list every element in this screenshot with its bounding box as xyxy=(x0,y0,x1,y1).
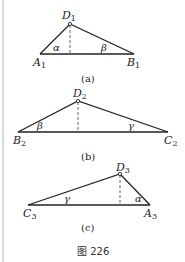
panel-label-b: (b) xyxy=(81,151,95,162)
vertex-label-a1: A1 xyxy=(32,56,46,70)
vertex-label-c3: C3 xyxy=(23,207,37,221)
angle-beta-a: β xyxy=(100,42,107,53)
panel-a: D1 A1 B1 α β (a) xyxy=(32,9,140,84)
panel-label-c: (c) xyxy=(81,222,95,233)
vertex-label-c2: C2 xyxy=(164,134,178,148)
angle-alpha-a: α xyxy=(53,42,60,53)
vertex-label-a3: A3 xyxy=(143,207,157,221)
angle-beta-b: β xyxy=(36,120,43,131)
vertex-label-d3: D3 xyxy=(115,161,130,175)
figure-226: D1 A1 B1 α β (a) D2 B2 C2 β γ (b) D3 xyxy=(0,0,185,262)
panel-c: D3 C3 A3 γ α (c) xyxy=(23,161,157,233)
vertex-label-d1: D1 xyxy=(61,9,76,23)
figure-caption: 图 226 xyxy=(77,246,109,257)
angle-gamma-b: γ xyxy=(128,120,134,131)
angle-alpha-c: α xyxy=(135,193,142,204)
angle-gamma-c: γ xyxy=(64,193,70,204)
panel-b: D2 B2 C2 β γ (b) xyxy=(12,87,178,162)
triangle-c-sides xyxy=(28,174,150,205)
triangle-diagram: D1 A1 B1 α β (a) D2 B2 C2 β γ (b) D3 xyxy=(0,0,185,262)
vertex-label-b1: B1 xyxy=(126,56,140,70)
panel-label-a: (a) xyxy=(81,73,95,84)
vertex-label-d2: D2 xyxy=(72,87,87,101)
vertex-label-b2: B2 xyxy=(12,134,26,148)
